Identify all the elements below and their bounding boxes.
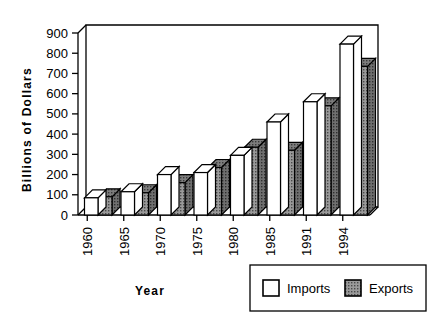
bar-imports-1991 — [304, 94, 326, 215]
y-tick-label: 200 — [46, 167, 68, 182]
bar-front-face — [85, 198, 99, 215]
y-tick-label: 300 — [46, 147, 68, 162]
bar-front-face — [267, 122, 281, 215]
bar-side-face — [317, 94, 325, 215]
bar-side-face — [258, 139, 266, 215]
x-tick-label: 1994 — [336, 227, 351, 256]
bar-imports-1994 — [340, 36, 362, 215]
x-tick-label: 1960 — [80, 227, 95, 256]
bar-side-face — [244, 147, 252, 215]
bar-front-face — [231, 155, 245, 215]
chart-canvas: Billions of Dollars 01002003004005006007… — [0, 0, 445, 327]
y-axis-title: Billions of Dollars — [20, 67, 34, 192]
bar-side-face — [331, 98, 339, 215]
legend-item-imports: Imports — [263, 280, 331, 296]
y-tick-label: 700 — [46, 66, 68, 81]
bar-side-face — [354, 36, 362, 215]
y-tick-label: 900 — [46, 26, 68, 41]
x-axis-ticks: 19601965197019751980198519911994 — [80, 215, 351, 256]
bar-imports-1975 — [194, 165, 216, 215]
legend-label-exports: Exports — [369, 281, 414, 296]
bar-imports-1965 — [121, 184, 143, 215]
x-axis-title-text: Year — [135, 284, 165, 298]
bar-front-face — [158, 175, 172, 215]
y-tick-label: 500 — [46, 106, 68, 121]
bars-layer — [85, 36, 376, 215]
white-swatch-icon — [263, 280, 279, 296]
bar-side-face — [281, 114, 289, 215]
bar-side-face — [222, 159, 230, 215]
y-tick-label: 600 — [46, 86, 68, 101]
chart-legend: Imports Exports — [250, 265, 426, 311]
x-tick-label: 1965 — [117, 227, 132, 256]
y-tick-label: 400 — [46, 127, 68, 142]
bar-front-face — [121, 192, 135, 215]
y-tick-label: 0 — [61, 208, 68, 223]
x-tick-label: 1980 — [226, 227, 241, 256]
bar-imports-1985 — [267, 114, 289, 215]
bar-front-face — [194, 173, 208, 215]
x-tick-label: 1975 — [190, 227, 205, 256]
bar-chart-figure: Billions of Dollars 01002003004005006007… — [0, 0, 445, 327]
x-tick-label: 1991 — [299, 227, 314, 256]
legend-label-imports: Imports — [287, 281, 331, 296]
x-tick-label: 1970 — [153, 227, 168, 256]
y-axis-title-text: Billions of Dollars — [20, 67, 34, 192]
bar-side-face — [295, 142, 303, 215]
y-tick-label: 800 — [46, 46, 68, 61]
bar-side-face — [368, 58, 376, 215]
y-tick-label: 100 — [46, 187, 68, 202]
x-tick-label: 1985 — [263, 227, 278, 256]
bar-imports-1980 — [231, 147, 253, 215]
bar-front-face — [304, 102, 318, 215]
gray-hatched-swatch-icon — [345, 280, 361, 296]
y-axis-ticks: 0100200300400500600700800900 — [46, 26, 78, 223]
bar-imports-1970 — [158, 167, 180, 215]
legend-item-exports: Exports — [345, 280, 414, 296]
x-axis-title: Year — [135, 284, 165, 298]
bar-front-face — [340, 44, 354, 215]
